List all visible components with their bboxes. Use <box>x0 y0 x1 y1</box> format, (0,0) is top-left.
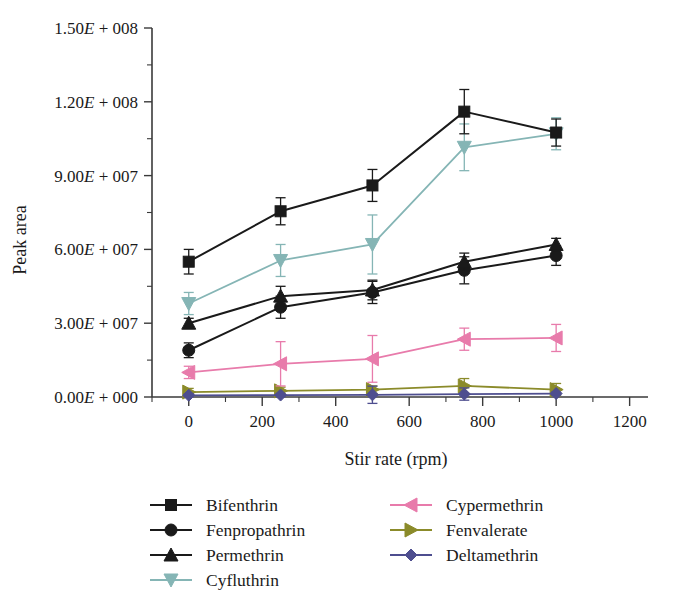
legend-item-label: Fenpropathrin <box>206 520 305 540</box>
x-tick-label: 200 <box>249 412 275 431</box>
legend-item-fenpropathrin[interactable]: Fenpropathrin <box>150 520 305 540</box>
legend-item-label: Bifenthrin <box>206 495 278 515</box>
legend-item-cyfluthrin[interactable]: Cyfluthrin <box>150 570 279 590</box>
y-tick-label: 0.00E + 000 <box>54 388 138 407</box>
y-tick-label: 1.50E + 008 <box>54 19 138 38</box>
y-tick-label: 3.00E + 007 <box>54 314 138 333</box>
legend-item-label: Cyfluthrin <box>206 570 279 590</box>
data-series-group <box>182 90 563 404</box>
data-point-square <box>183 256 194 267</box>
x-tick-label: 400 <box>323 412 349 431</box>
legend-item-label: Cypermethrin <box>446 495 543 515</box>
data-point-triangle-right <box>405 523 418 537</box>
x-tick-label: 1200 <box>613 412 647 431</box>
data-point-square <box>551 127 562 138</box>
legend-item-label: Fenvalerate <box>446 520 528 540</box>
legend-item-label: Permethrin <box>206 545 284 565</box>
data-point-triangle-down <box>274 254 288 267</box>
data-point-triangle-up <box>549 237 563 250</box>
y-axis: 0.00E + 0003.00E + 0076.00E + 0079.00E +… <box>54 19 152 407</box>
x-axis: 020040060080010001200 <box>152 397 648 431</box>
data-point-circle <box>550 250 562 262</box>
x-tick-label: 600 <box>396 412 422 431</box>
data-point-triangle-down <box>182 298 196 311</box>
data-point-triangle-left <box>404 498 417 512</box>
x-axis-title: Stir rate (rpm) <box>345 449 448 470</box>
data-point-square <box>367 180 378 191</box>
y-tick-label: 6.00E + 007 <box>54 240 138 259</box>
chart-figure: 0.00E + 0003.00E + 0076.00E + 0079.00E +… <box>0 0 676 595</box>
legend-item-label: Deltamethrin <box>446 545 539 565</box>
data-point-square <box>166 500 177 511</box>
legend-item-cypermethrin[interactable]: Cypermethrin <box>390 495 543 515</box>
data-point-diamond <box>405 549 417 561</box>
data-point-square <box>275 206 286 217</box>
legend-item-fenvalerate[interactable]: Fenvalerate <box>390 520 528 540</box>
x-tick-label: 1000 <box>539 412 573 431</box>
y-tick-label: 1.20E + 008 <box>54 93 138 112</box>
legend-item-deltamethrin[interactable]: Deltamethrin <box>390 545 539 565</box>
y-axis-title: Peak area <box>10 205 30 274</box>
peak-area-vs-stir-rate-chart: 0.00E + 0003.00E + 0076.00E + 0079.00E +… <box>0 0 676 595</box>
x-tick-label: 0 <box>184 412 193 431</box>
data-point-circle <box>183 344 195 356</box>
series-cypermethrin <box>182 324 562 386</box>
y-tick-label: 9.00E + 007 <box>54 167 138 186</box>
legend-item-bifenthrin[interactable]: Bifenthrin <box>150 495 278 515</box>
series-deltamethrin <box>183 386 562 403</box>
legend-item-permethrin[interactable]: Permethrin <box>150 545 284 565</box>
data-point-square <box>459 106 470 117</box>
x-tick-label: 800 <box>470 412 496 431</box>
data-point-circle <box>165 524 177 536</box>
chart-legend: BifenthrinFenpropathrinPermethrinCyfluth… <box>150 495 543 590</box>
